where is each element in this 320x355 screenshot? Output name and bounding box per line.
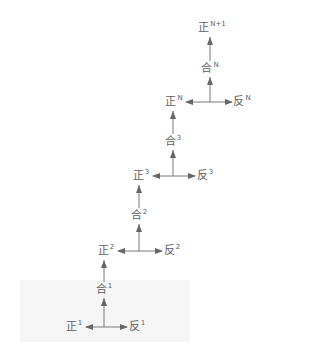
arrow-to-synthesis-2 (136, 224, 142, 232)
antithesis-label-2: 反2 (164, 245, 180, 257)
arrow-to-next-thesis-2 (136, 185, 142, 193)
synthesis-label-3-char: 合 (165, 135, 176, 148)
thesis-label-4-superscript: N (177, 94, 182, 102)
arrow-to-thesis-4 (185, 99, 193, 105)
antithesis-label-1-char: 反 (129, 320, 140, 333)
synthesis-label-4: 合N (201, 63, 218, 75)
antithesis-label-3-char: 反 (197, 169, 208, 182)
synthesis-label-3-superscript: 3 (177, 134, 181, 142)
synthesis-label-2: 合2 (131, 210, 147, 222)
synthesis-label-4-char: 合 (201, 62, 212, 75)
arrow-to-antithesis-4 (225, 99, 233, 105)
arrow-to-next-thesis-1 (101, 260, 107, 268)
thesis-label-2: 正2 (98, 245, 114, 257)
thesis-label-3-char: 正 (133, 169, 144, 182)
arrow-to-synthesis-3 (170, 150, 176, 158)
antithesis-label-2-char: 反 (164, 244, 175, 257)
thesis-label-1-superscript: 1 (78, 319, 82, 327)
antithesis-label-4-char: 反 (233, 95, 244, 108)
antithesis-label-4: 反N (233, 96, 250, 108)
synthesis-label-1: 合1 (96, 284, 112, 296)
arrow-to-next-thesis-3 (170, 111, 176, 119)
synthesis-label-3: 合3 (165, 136, 181, 148)
thesis-label-2-superscript: 2 (110, 243, 114, 251)
antithesis-label-1: 反1 (129, 321, 145, 333)
synthesis-label-4-superscript: N (213, 61, 218, 69)
thesis-label-4: 正N (165, 96, 182, 108)
synthesis-label-2-char: 合 (131, 209, 142, 222)
final-thesis-label: 正N+1 (198, 22, 226, 34)
thesis-label-4-char: 正 (165, 95, 176, 108)
arrow-to-thesis-3 (152, 173, 160, 179)
thesis-label-3-superscript: 3 (145, 168, 149, 176)
thesis-label-1-char: 正 (66, 320, 77, 333)
thesis-label-1: 正1 (66, 321, 82, 333)
synthesis-label-2-superscript: 2 (143, 208, 147, 216)
synthesis-label-1-char: 合 (96, 283, 107, 296)
arrow-to-antithesis-2 (155, 248, 163, 254)
final-thesis-label-char: 正 (198, 21, 209, 34)
arrow-to-antithesis-3 (188, 173, 196, 179)
final-thesis-label-superscript: N+1 (210, 20, 226, 28)
antithesis-label-4-superscript: N (245, 94, 250, 102)
arrow-to-thesis-2 (117, 248, 125, 254)
arrow-to-next-thesis-4 (207, 37, 213, 45)
synthesis-label-1-superscript: 1 (108, 282, 112, 290)
antithesis-label-1-superscript: 1 (141, 319, 145, 327)
thesis-label-3: 正3 (133, 170, 149, 182)
thesis-label-2-char: 正 (98, 244, 109, 257)
arrow-to-synthesis-4 (207, 77, 213, 85)
antithesis-label-3: 反3 (197, 170, 213, 182)
antithesis-label-2-superscript: 2 (176, 243, 180, 251)
antithesis-label-3-superscript: 3 (209, 168, 213, 176)
